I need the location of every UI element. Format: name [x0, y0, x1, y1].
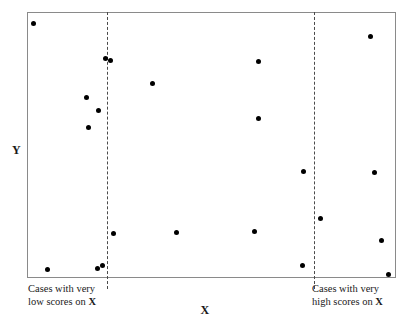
data-point	[256, 116, 261, 121]
annotation-low-variable: X	[88, 296, 96, 307]
data-point	[84, 95, 89, 100]
annotation-high-variable: X	[375, 296, 383, 307]
annotation-low-line2: low scores on X	[28, 296, 96, 309]
data-point	[100, 263, 105, 268]
cutline-high-score-cut	[314, 12, 315, 289]
data-point	[108, 58, 113, 63]
data-point	[96, 108, 101, 113]
data-point	[256, 59, 261, 64]
annotation-high-line2: high scores on X	[312, 296, 383, 309]
scatter-plot-figure: Y X Cases with very low scores on X Case…	[0, 0, 410, 329]
annotation-high-line2-text: high scores on	[312, 296, 375, 307]
annotation-low-line2-text: low scores on	[28, 296, 88, 307]
annotation-high-scores: Cases with very high scores on X	[312, 283, 383, 308]
y-axis-label: Y	[12, 143, 21, 158]
data-point	[174, 230, 179, 235]
plot-canvas	[28, 13, 395, 277]
data-point	[95, 266, 100, 271]
plot-area	[27, 12, 396, 278]
data-point	[386, 272, 391, 277]
data-point	[252, 229, 257, 234]
data-point	[301, 169, 306, 174]
data-point	[372, 170, 377, 175]
cutline-low-score-cut	[107, 12, 108, 289]
data-point	[31, 21, 36, 26]
data-point	[300, 263, 305, 268]
data-point	[111, 231, 116, 236]
data-point	[318, 216, 323, 221]
data-point	[379, 238, 384, 243]
data-point	[86, 125, 91, 130]
annotation-low-line1: Cases with very	[28, 283, 96, 296]
annotation-high-line1: Cases with very	[312, 283, 383, 296]
annotation-low-scores: Cases with very low scores on X	[28, 283, 96, 308]
data-point	[45, 267, 50, 272]
data-point	[150, 81, 155, 86]
data-point	[368, 34, 373, 39]
